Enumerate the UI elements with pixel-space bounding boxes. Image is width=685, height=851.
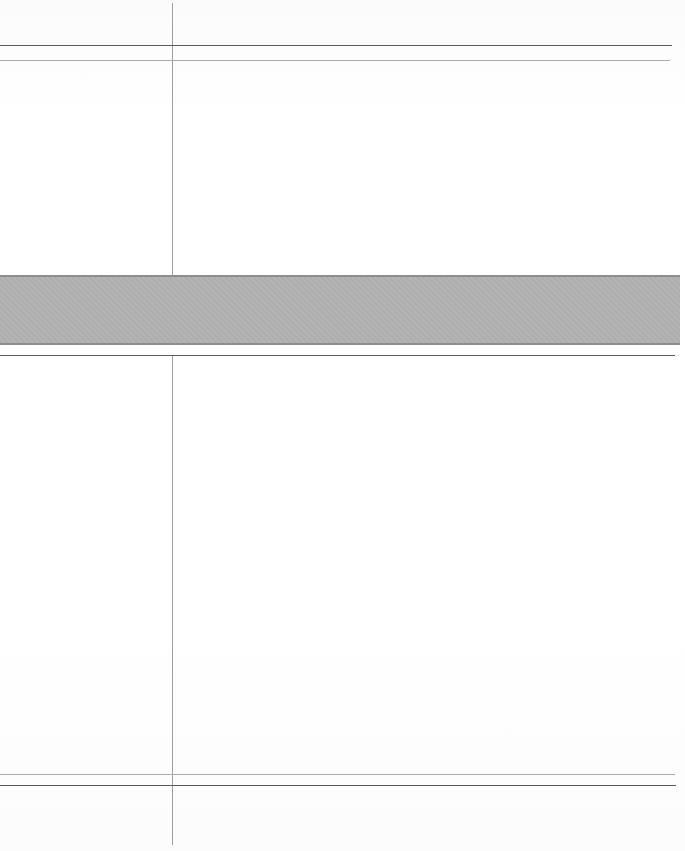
band-bottom-edge (0, 343, 680, 345)
header-rule-lower (0, 60, 670, 61)
lower-body-right-cell (173, 356, 685, 774)
footer-strip-right-cell (173, 775, 685, 785)
footer-strip-left-cell (0, 775, 172, 785)
footer-right-cell (173, 786, 685, 851)
footer-left-cell (0, 786, 172, 851)
subheader-right-cell (173, 46, 685, 60)
subheader-left-cell (0, 46, 172, 60)
column-divider-rule-upper (172, 3, 173, 275)
upper-body-left-cell (0, 61, 172, 275)
scanned-page (0, 0, 685, 851)
upper-body-right-cell (173, 61, 685, 275)
header-left-cell (0, 0, 172, 45)
header-right-cell (173, 0, 685, 45)
shaded-separator-band (0, 275, 680, 345)
band-top-edge (0, 275, 680, 277)
lower-body-left-cell (0, 356, 172, 774)
header-rule-upper (0, 45, 672, 46)
